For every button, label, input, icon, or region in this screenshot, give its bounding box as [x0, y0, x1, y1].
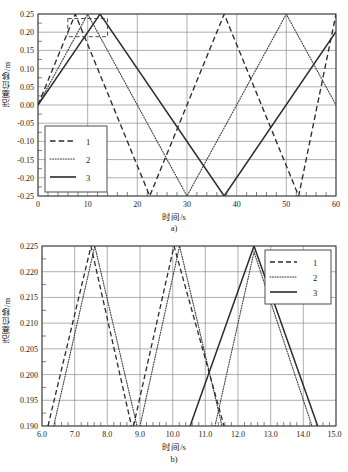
panel-a-ytick: -0.05 — [17, 119, 34, 128]
panel-a-legend-label-1: 1 — [86, 137, 90, 147]
panel-a-legend: 1 2 3 — [45, 126, 107, 192]
panel-a-ytick: 0.15 — [20, 46, 34, 55]
panel-b-x-axis-title: 时间/s — [0, 440, 348, 452]
panel-b-label: b) — [0, 454, 348, 464]
panel-b-series-2 — [54, 246, 137, 426]
panel-b-xtick: 13.0 — [264, 430, 278, 439]
panel-b-y-axis-title: 活塞位移/m — [1, 298, 13, 343]
panel-a-y-axis-title: 活塞位移/m — [1, 62, 13, 107]
panel-b-ytick: 0.225 — [20, 242, 38, 251]
panel-b-series-1 — [48, 246, 132, 426]
panel-a-legend-label-3: 3 — [86, 173, 90, 183]
panel-a-label: a) — [0, 223, 348, 233]
panel-a-ytick: 0.00 — [20, 101, 34, 110]
figure-root: 1 2 3 0.25 0.20 0.15 0.10 0.05 0.00 -0.0… — [0, 0, 348, 472]
panel-b-xtick: 6.0 — [37, 430, 47, 439]
chart-panel-b: 1 2 3 0.225 0.220 0.215 0.210 0.205 0.20… — [0, 236, 348, 472]
panel-b-ytick: 0.190 — [20, 422, 38, 431]
panel-b-xtick: 12.0 — [231, 430, 245, 439]
panel-b-xtick: 11.0 — [198, 430, 212, 439]
panel-a-ytick: 0.20 — [20, 28, 34, 37]
panel-a-xtick-labels: 0 10 20 30 40 50 60 — [36, 200, 340, 209]
panel-a-ytick: 0.05 — [20, 83, 34, 92]
panel-a-xtick: 60 — [332, 200, 340, 209]
panel-b-legend-label-2: 2 — [313, 273, 317, 283]
panel-b-xtick: 15.0 — [328, 430, 342, 439]
panel-b-legend-label-3: 3 — [313, 288, 317, 298]
panel-a-xtick: 30 — [183, 200, 191, 209]
panel-a-xtick: 40 — [233, 200, 241, 209]
panel-b-plot: 1 2 3 0.225 0.220 0.215 0.210 0.205 0.20… — [0, 236, 348, 472]
panel-b-ytick: 0.200 — [20, 371, 38, 380]
panel-b-xtick: 7.0 — [70, 430, 80, 439]
panel-a-xtick: 50 — [282, 200, 290, 209]
panel-b-ytick: 0.210 — [20, 319, 38, 328]
panel-a-ytick: -0.25 — [17, 192, 34, 201]
panel-a-ytick-labels: 0.25 0.20 0.15 0.10 0.05 0.00 -0.05 -0.1… — [17, 10, 34, 201]
panel-a-plot: 1 2 3 0.25 0.20 0.15 0.10 0.05 0.00 -0.0… — [0, 0, 348, 236]
panel-b-ytick-labels: 0.225 0.220 0.215 0.210 0.205 0.200 0.19… — [20, 242, 38, 431]
panel-b-ytick: 0.220 — [20, 268, 38, 277]
panel-a-ytick: -0.10 — [17, 137, 34, 146]
panel-a-ytick: -0.15 — [17, 156, 34, 165]
panel-b-xtick: 10.0 — [166, 430, 180, 439]
panel-b-ytick: 0.205 — [20, 345, 38, 354]
panel-b-legend: 1 2 3 — [265, 250, 331, 304]
panel-b-ytick: 0.215 — [20, 293, 38, 302]
panel-b-legend-label-1: 1 — [313, 258, 317, 268]
panel-a-x-axis-title: 时间/s — [0, 210, 348, 222]
panel-a-ytick: 0.25 — [20, 10, 34, 19]
panel-b-xtick: 14.0 — [296, 430, 310, 439]
panel-a-legend-label-2: 2 — [86, 155, 90, 165]
chart-panel-a: 1 2 3 0.25 0.20 0.15 0.10 0.05 0.00 -0.0… — [0, 0, 348, 236]
panel-a-xtick: 20 — [133, 200, 141, 209]
panel-b-xtick: 9.0 — [135, 430, 145, 439]
panel-a-ytick: 0.10 — [20, 65, 34, 74]
panel-b-series-1b — [134, 246, 225, 426]
panel-b-xtick-labels: 6.0 7.0 8.0 9.0 10.0 11.0 12.0 13.0 14.0… — [37, 430, 342, 439]
panel-a-xtick: 0 — [36, 200, 40, 209]
panel-a-xtick: 10 — [84, 200, 92, 209]
panel-a-ytick: -0.20 — [17, 174, 34, 183]
panel-b-xtick: 8.0 — [102, 430, 112, 439]
panel-b-ytick: 0.195 — [20, 396, 38, 405]
